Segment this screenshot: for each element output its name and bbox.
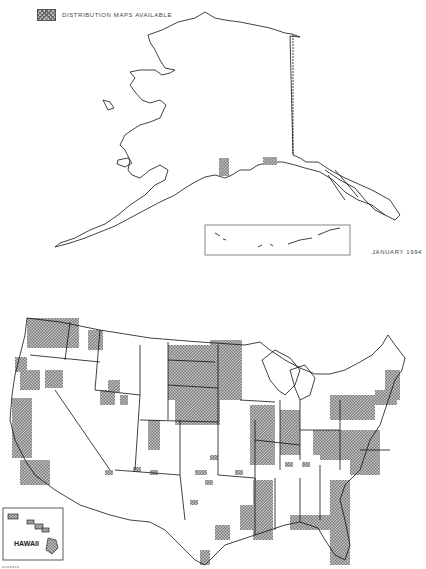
hawaii-inset xyxy=(3,508,63,560)
date-label: JANUARY 1994 xyxy=(372,249,422,255)
us-highlighted-areas xyxy=(12,318,400,565)
hawaii-label: HAWAII xyxy=(14,540,39,547)
contiguous-us-map xyxy=(10,318,405,565)
map-canvas xyxy=(0,0,426,569)
alaska-highlighted-areas xyxy=(219,157,277,176)
alaska-map xyxy=(55,12,400,255)
footnote: xxxxxxx xyxy=(2,564,20,569)
